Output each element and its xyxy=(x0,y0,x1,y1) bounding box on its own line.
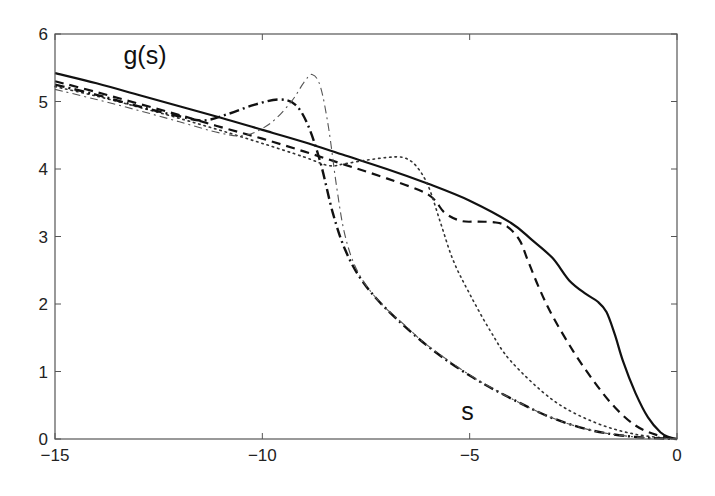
curve-thin-dash-dot xyxy=(55,74,677,439)
s-annotation: s xyxy=(461,397,474,425)
curve-dotted xyxy=(55,87,677,439)
y-tick-label: 3 xyxy=(39,228,48,247)
y-tick-label: 4 xyxy=(39,160,48,179)
y-tick-label: 5 xyxy=(39,93,48,112)
y-axis: 0123456 xyxy=(39,25,677,449)
curve-thick-dash-dot xyxy=(55,85,677,439)
x-tick-label: −5 xyxy=(460,446,479,465)
plot-curves xyxy=(55,73,677,439)
x-tick-label: −10 xyxy=(248,446,277,465)
curve-dashed xyxy=(55,81,677,439)
gs-annotation: g(s) xyxy=(123,41,166,69)
plot-frame xyxy=(55,34,677,439)
x-axis: −15−10−50 xyxy=(41,34,682,465)
y-tick-label: 2 xyxy=(39,295,48,314)
y-tick-label: 6 xyxy=(39,25,48,44)
y-tick-label: 1 xyxy=(39,363,48,382)
y-tick-label: 0 xyxy=(39,430,48,449)
x-tick-label: 0 xyxy=(672,446,681,465)
curve-solid xyxy=(55,73,677,439)
line-chart: −15−10−50 0123456 g(s) s xyxy=(0,0,715,496)
